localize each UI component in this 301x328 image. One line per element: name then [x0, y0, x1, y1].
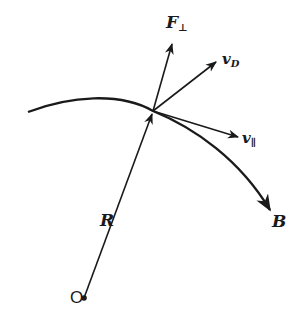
drift-velocity-diagram: F⊥ vD v∥ B R O [0, 0, 301, 328]
label-vd-main: v [222, 50, 231, 68]
vector-v-d [153, 62, 216, 111]
label-b: B [272, 213, 286, 230]
vector-f-perp [153, 44, 172, 111]
label-vd-sub: D [231, 58, 240, 69]
vector-r [84, 114, 152, 298]
diagram-canvas [0, 0, 301, 328]
label-o: O [70, 289, 83, 306]
label-f-perp: F⊥ [166, 14, 188, 33]
label-f-sub: ⊥ [178, 22, 188, 33]
label-r: R [100, 212, 114, 229]
field-line-b [28, 98, 270, 210]
label-vpar-sub: ∥ [251, 137, 256, 148]
label-v-d: vD [222, 52, 239, 69]
label-f-main: F [166, 12, 178, 32]
label-v-parallel: v∥ [242, 131, 256, 148]
label-vpar-main: v [242, 129, 251, 147]
